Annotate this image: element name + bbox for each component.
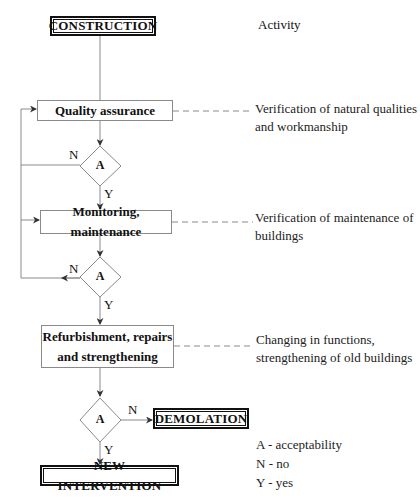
description-line: and workmanship: [255, 118, 417, 136]
legend-no: N - no: [256, 454, 342, 473]
decision-3-no: N: [128, 402, 137, 418]
refurbishment-label-line2: and strengthening: [57, 347, 158, 367]
monitoring-maintenance-box: Monitoring, maintenance: [40, 210, 172, 234]
quality-assurance-label: Quality assurance: [55, 101, 155, 121]
new-intervention-label: NEW INTERVENTION: [42, 456, 177, 496]
monitoring-maintenance-label: Monitoring, maintenance: [41, 202, 171, 242]
description-line: Verification of maintenance of: [255, 209, 413, 227]
decision-1-yes: Y: [104, 186, 113, 202]
demolation-box: DEMOLATION: [153, 408, 249, 429]
decision-2-label: A: [90, 269, 110, 284]
legend-acceptability: A - acceptability: [256, 435, 342, 454]
description-line: Verification of natural qualities: [255, 100, 417, 118]
refurbishment-description: Changing in functions, strengthening of …: [256, 331, 412, 367]
decision-3-label: A: [90, 412, 110, 427]
description-line: buildings: [255, 227, 413, 245]
legend: A - acceptability N - no Y - yes: [256, 435, 342, 492]
monitoring-description: Verification of maintenance of buildings: [255, 209, 413, 245]
decision-2-yes: Y: [104, 297, 113, 313]
refurbishment-box: Refurbishment, repairs and strengthening: [41, 325, 174, 368]
quality-assurance-box: Quality assurance: [37, 100, 173, 121]
description-line: strengthening of old buildings: [256, 349, 412, 367]
new-intervention-box: NEW INTERVENTION: [40, 465, 179, 486]
decision-1-label: A: [90, 158, 110, 173]
construction-label: CONSTRUCTION: [49, 16, 158, 36]
demolation-label: DEMOLATION: [155, 409, 248, 429]
legend-yes: Y - yes: [256, 473, 342, 492]
construction-box: CONSTRUCTION: [50, 16, 156, 36]
decision-1-no: N: [69, 147, 78, 163]
decision-2-no: N: [69, 261, 78, 277]
quality-assurance-description: Verification of natural qualities and wo…: [255, 100, 417, 136]
refurbishment-label-line1: Refurbishment, repairs: [43, 327, 173, 347]
description-line: Changing in functions,: [256, 331, 412, 349]
activity-column-title: Activity: [258, 17, 301, 33]
